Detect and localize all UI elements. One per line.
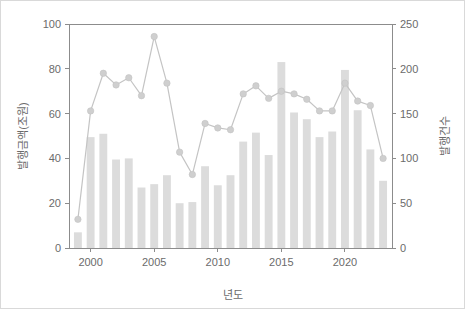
x-ticklabel-2005: 2005 xyxy=(142,256,166,268)
y-ticklabel-left-100: 100 xyxy=(43,18,61,30)
y-ticklabel-left-60: 60 xyxy=(49,108,61,120)
y-ticklabel-right-0: 0 xyxy=(400,242,406,254)
bar-2012 xyxy=(239,142,247,248)
bar-2013 xyxy=(252,133,260,248)
bar-2021 xyxy=(354,110,362,248)
line-marker-2012 xyxy=(240,91,246,97)
x-ticklabel-2000: 2000 xyxy=(78,256,102,268)
line-marker-2018 xyxy=(316,108,322,114)
line-marker-2016 xyxy=(291,91,297,97)
chart-canvas: 0204060801000501001502002502000200520102… xyxy=(1,1,465,309)
bar-2022 xyxy=(366,149,374,248)
y-ticklabel-right-50: 50 xyxy=(400,197,412,209)
line-marker-2013 xyxy=(253,83,259,89)
line-marker-2004 xyxy=(138,92,144,98)
line-marker-2002 xyxy=(113,82,119,88)
line-marker-2008 xyxy=(189,171,195,177)
bar-2018 xyxy=(316,137,324,248)
bar-2006 xyxy=(163,175,171,248)
x-axis-title: 년도 xyxy=(223,289,243,301)
bar-2005 xyxy=(150,184,158,248)
line-marker-2019 xyxy=(329,108,335,114)
bar-2009 xyxy=(201,166,209,248)
x-ticklabel-2010: 2010 xyxy=(206,256,230,268)
line-marker-2020 xyxy=(342,80,348,86)
line-marker-1999 xyxy=(75,216,81,222)
bar-2001 xyxy=(99,134,107,248)
line-marker-2017 xyxy=(304,96,310,102)
bar-2002 xyxy=(112,160,120,248)
y-ticklabel-left-40: 40 xyxy=(49,152,61,164)
bar-2014 xyxy=(265,155,273,248)
line-marker-2023 xyxy=(380,155,386,161)
y-ticklabel-right-250: 250 xyxy=(400,18,418,30)
y-axis-title-left: 발행금액(조원) xyxy=(17,102,29,169)
line-marker-2021 xyxy=(354,98,360,104)
line-marker-2011 xyxy=(227,127,233,133)
y-ticklabel-left-20: 20 xyxy=(49,197,61,209)
y-ticklabel-right-100: 100 xyxy=(400,152,418,164)
bar-2019 xyxy=(328,132,336,248)
bar-2003 xyxy=(125,158,133,248)
bar-2007 xyxy=(176,203,184,248)
line-marker-2010 xyxy=(215,125,221,131)
line-marker-2006 xyxy=(164,80,170,86)
y-axis-title-right: 발행건수 xyxy=(439,116,451,156)
x-ticklabel-2015: 2015 xyxy=(269,256,293,268)
line-marker-2014 xyxy=(265,95,271,101)
bar-2011 xyxy=(227,175,235,248)
line-marker-2000 xyxy=(87,108,93,114)
y-ticklabel-right-150: 150 xyxy=(400,108,418,120)
line-marker-2005 xyxy=(151,33,157,39)
line-marker-2001 xyxy=(100,70,106,76)
y-ticklabel-left-80: 80 xyxy=(49,63,61,75)
y-ticklabel-right-200: 200 xyxy=(400,63,418,75)
bar-2004 xyxy=(138,188,146,248)
bar-2016 xyxy=(290,112,298,248)
line-marker-2007 xyxy=(176,149,182,155)
bar-series-group xyxy=(74,62,387,248)
bar-2020 xyxy=(341,70,349,248)
line-marker-2022 xyxy=(367,102,373,108)
line-marker-2003 xyxy=(126,75,132,81)
y-ticklabel-left-0: 0 xyxy=(55,242,61,254)
bar-1999 xyxy=(74,232,82,248)
bar-2008 xyxy=(188,202,196,248)
x-ticklabel-2020: 2020 xyxy=(333,256,357,268)
bar-2017 xyxy=(303,119,311,248)
chart-figure: 0204060801000501001502002502000200520102… xyxy=(0,0,465,309)
line-marker-2009 xyxy=(202,120,208,126)
bar-2010 xyxy=(214,185,222,248)
line-marker-2015 xyxy=(278,88,284,94)
bar-2000 xyxy=(87,137,95,248)
bar-2023 xyxy=(379,181,387,248)
